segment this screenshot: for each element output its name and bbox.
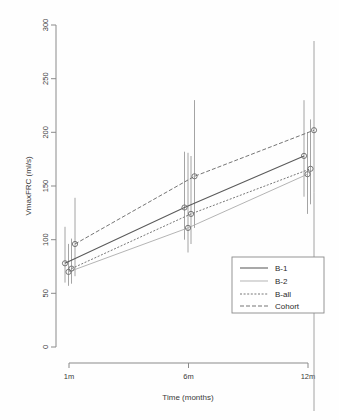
chart-figure: 300 250 200 150 100 50 0 VmaxFRC (ml/s) …: [0, 0, 339, 420]
y-tick-label-200: 200: [41, 126, 50, 139]
y-tick-label-100: 100: [41, 233, 50, 246]
x-axis-title: Time (months): [162, 393, 214, 402]
legend-label-ball: B-all: [275, 290, 291, 299]
y-axis-title: VmaxFRC (ml/s): [24, 156, 33, 215]
y-tick-label-0: 0: [41, 345, 50, 349]
series-lines: [65, 130, 314, 272]
legend: B-1 B-2 B-all Cohort: [232, 257, 324, 313]
legend-label-b1: B-1: [275, 264, 288, 273]
x-axis: 1m 6m 12m Time (months): [64, 363, 316, 402]
y-tick-label-150: 150: [41, 180, 50, 193]
series-markers: [62, 128, 316, 275]
legend-label-cohort: Cohort: [275, 302, 300, 311]
y-tick-label-50: 50: [41, 289, 50, 297]
x-tick-label-1m: 1m: [64, 372, 74, 381]
x-tick-label-6m: 6m: [183, 372, 193, 381]
legend-label-b2: B-2: [275, 277, 288, 286]
chart-canvas: 300 250 200 150 100 50 0 VmaxFRC (ml/s) …: [0, 0, 339, 420]
x-tick-label-12m: 12m: [301, 372, 316, 381]
y-tick-label-300: 300: [41, 19, 50, 32]
y-tick-label-250: 250: [41, 72, 50, 85]
y-axis: 300 250 200 150 100 50 0 VmaxFRC (ml/s): [24, 19, 56, 349]
